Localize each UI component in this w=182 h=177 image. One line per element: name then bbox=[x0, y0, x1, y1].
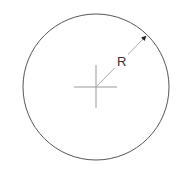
radius-label: R bbox=[117, 54, 126, 69]
diagram-canvas: R bbox=[0, 0, 182, 177]
circle-diagram: R bbox=[0, 0, 182, 177]
